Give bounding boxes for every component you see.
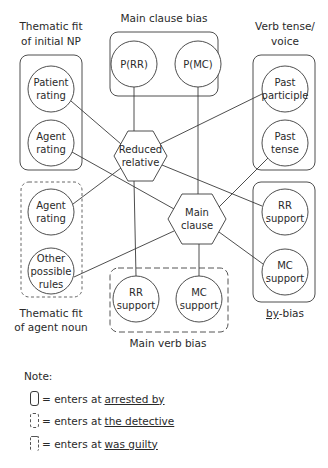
node-p-mc: P(MC) bbox=[175, 41, 221, 87]
node-label: tense bbox=[271, 144, 299, 155]
node-by-bias-mc-support: MC support bbox=[262, 249, 308, 295]
node-main-verb-mc-support: MC support bbox=[176, 276, 222, 322]
dashed-box-symbol bbox=[30, 413, 39, 428]
node-label: Main bbox=[185, 207, 209, 218]
node-reduced-relative: Reduced relative bbox=[114, 131, 167, 181]
node-label: RR bbox=[129, 287, 143, 298]
node-label: rating bbox=[36, 144, 66, 155]
edge-other-rules-to-main-clause bbox=[74, 231, 174, 277]
group-title-thematic-fit-agent-noun-1: Thematic fit bbox=[18, 307, 82, 319]
edge-by-mc-support-to-main-clause bbox=[219, 232, 263, 264]
node-label: support bbox=[266, 213, 304, 224]
group-title-thematic-fit-initial-np-2: of initial NP bbox=[21, 35, 81, 47]
node-label: clause bbox=[181, 220, 213, 231]
group-title-verb-tense-voice-2: voice bbox=[271, 35, 299, 47]
node-label: Other bbox=[37, 253, 66, 264]
node-label: MC bbox=[191, 287, 207, 298]
edge-past-tense-to-main-clause bbox=[219, 158, 268, 207]
node-label: Past bbox=[275, 131, 296, 142]
node-label: MC bbox=[277, 260, 293, 271]
node-main-clause: Main clause bbox=[168, 194, 226, 244]
group-title-thematic-fit-initial-np-1: Thematic fit bbox=[18, 20, 82, 32]
node-label: P(MC) bbox=[183, 59, 213, 70]
group-title-main-clause-bias: Main clause bias bbox=[121, 12, 208, 24]
solid-box-symbol bbox=[30, 391, 39, 406]
legend-prefix: = enters at bbox=[42, 438, 102, 450]
edge-patient-rating-to-reduced-relative bbox=[71, 101, 121, 144]
bias-suffix: -bias bbox=[279, 307, 304, 319]
long-dashed-box-symbol bbox=[30, 436, 39, 451]
node-label: support bbox=[117, 300, 155, 311]
legend-row-long-dashed: = enters at was guilty bbox=[30, 436, 158, 451]
legend-row-dashed: = enters at the detective bbox=[30, 413, 174, 428]
node-agent-rating-initial-np: Agent rating bbox=[28, 120, 74, 166]
group-title-thematic-fit-agent-noun-2: of agent noun bbox=[14, 321, 88, 333]
node-label: support bbox=[180, 300, 218, 311]
node-other-possible-rules: Other possible rules bbox=[28, 248, 74, 294]
node-main-verb-rr-support: RR support bbox=[113, 276, 159, 322]
legend-words: arrested by bbox=[105, 393, 165, 405]
legend-prefix: = enters at bbox=[42, 393, 102, 405]
edge-past-participle-to-reduced-relative bbox=[160, 94, 262, 144]
by-underlined: by bbox=[266, 307, 279, 319]
node-by-bias-rr-support: RR support bbox=[262, 189, 308, 235]
group-title-by-bias: by-bias bbox=[266, 307, 304, 319]
node-label: rules bbox=[39, 279, 64, 290]
node-label: Reduced bbox=[119, 144, 162, 155]
node-label: support bbox=[266, 273, 304, 284]
edge-mv-rr-support-to-reduced-relative bbox=[134, 181, 136, 276]
node-label: Agent bbox=[36, 131, 66, 142]
node-label: Past bbox=[275, 77, 296, 88]
node-label: rating bbox=[36, 90, 66, 101]
group-title-verb-tense-voice-1: Verb tense/ bbox=[255, 20, 315, 32]
node-label: relative bbox=[122, 157, 160, 168]
node-label: Agent bbox=[36, 200, 66, 211]
node-past-participle: Past participle bbox=[262, 66, 309, 112]
edges bbox=[71, 87, 268, 277]
node-patient-rating: Patient rating bbox=[28, 66, 74, 112]
edge-agent-rating-noun-to-reduced-relative bbox=[73, 168, 121, 204]
node-label: participle bbox=[262, 90, 309, 101]
node-label: Patient bbox=[34, 77, 69, 88]
node-agent-rating-agent-noun: Agent rating bbox=[28, 189, 74, 235]
node-label: P(RR) bbox=[120, 59, 148, 70]
legend-words: the detective bbox=[105, 415, 175, 427]
legend-words: was guilty bbox=[105, 438, 158, 450]
node-p-rr: P(RR) bbox=[111, 41, 157, 87]
node-label: rating bbox=[36, 213, 66, 224]
node-label: possible bbox=[31, 266, 72, 277]
legend-row-solid: = enters at arrested by bbox=[30, 391, 165, 406]
node-label: RR bbox=[278, 200, 292, 211]
node-past-tense: Past tense bbox=[262, 120, 308, 166]
note-title: Note: bbox=[24, 370, 52, 382]
group-title-main-verb-bias: Main verb bias bbox=[130, 337, 207, 349]
legend-prefix: = enters at bbox=[42, 415, 102, 427]
